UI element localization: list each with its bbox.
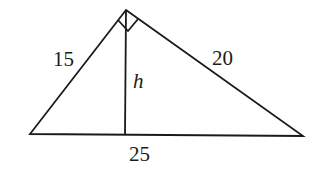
left-leg-label: 15 (53, 47, 74, 71)
altitude-label: h (133, 69, 144, 93)
triangle (30, 10, 303, 136)
right-leg-label: 20 (212, 46, 233, 70)
hypotenuse-label: 25 (129, 142, 150, 166)
triangle-diagram: 15 20 h 25 (0, 0, 325, 177)
right-angle-marker (118, 19, 138, 31)
